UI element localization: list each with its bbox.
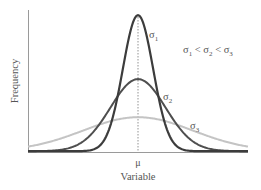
x-axis-label: Variable: [121, 171, 156, 182]
x-tick-mu: μ: [135, 157, 140, 168]
normal-distribution-chart: σ1σ2σ3 σ1 < σ2 < σ3 Frequency μ Variable: [0, 0, 261, 190]
series-label-sigma-2: σ2: [163, 91, 173, 105]
series-label-sigma-1: σ1: [149, 29, 159, 43]
sigma-relation-annotation: σ1 < σ2 < σ3: [183, 44, 233, 58]
y-axis-label: Frequency: [9, 58, 20, 103]
series-label-sigma-3: σ3: [190, 120, 200, 134]
